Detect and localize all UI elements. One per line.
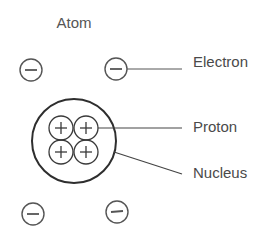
label-electron: Electron bbox=[193, 53, 248, 70]
diagram-title: Atom bbox=[56, 14, 91, 31]
electron-top-right bbox=[105, 58, 127, 80]
nucleus-leader-line bbox=[114, 152, 182, 174]
proton-3 bbox=[49, 140, 73, 164]
nucleus-circle bbox=[32, 99, 116, 183]
atom-diagram: Atom bbox=[0, 0, 280, 240]
label-proton: Proton bbox=[193, 118, 237, 135]
proton-4 bbox=[74, 140, 98, 164]
electron-bottom-left bbox=[22, 203, 44, 225]
electron-bottom-right bbox=[106, 201, 128, 223]
proton-1 bbox=[49, 116, 73, 140]
label-nucleus: Nucleus bbox=[193, 164, 247, 181]
proton-2 bbox=[74, 116, 98, 140]
proton-cluster bbox=[49, 116, 98, 164]
electron-top-left bbox=[20, 59, 42, 81]
